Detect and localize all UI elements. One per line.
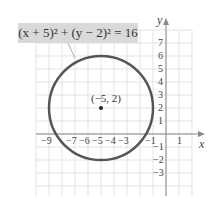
center-label: (−5, 2)	[91, 93, 121, 104]
center-point	[99, 106, 103, 110]
x-tick-label: −5	[92, 136, 103, 146]
y-tick-label: −1	[153, 142, 164, 152]
y-tick-label: −3	[153, 168, 164, 178]
y-tick-label: −2	[153, 155, 164, 165]
y-tick-label: 7	[158, 38, 163, 48]
y-tick-label: 1	[158, 116, 163, 126]
y-tick-label: 3	[158, 90, 163, 100]
x-axis-label: x	[199, 138, 204, 150]
y-tick-label: 2	[158, 103, 163, 113]
x-tick-label: −3	[118, 136, 129, 146]
y-tick-label: 4	[158, 77, 163, 87]
y-tick-label: 5	[158, 64, 163, 74]
x-tick-label: −6	[79, 136, 90, 146]
y-axis-arrow-icon	[163, 18, 169, 25]
equation-text: (x + 5)² + (y − 2)² = 16	[18, 25, 137, 41]
x-tick-label: −9	[41, 136, 52, 146]
x-tick-label: −4	[105, 136, 116, 146]
x-tick-label: −7	[66, 136, 77, 146]
equation-label: (x + 5)² + (y − 2)² = 16	[18, 23, 138, 43]
y-tick-label: 6	[158, 51, 163, 61]
x-tick-label: 1	[177, 136, 182, 146]
y-axis-label: y	[157, 14, 162, 26]
